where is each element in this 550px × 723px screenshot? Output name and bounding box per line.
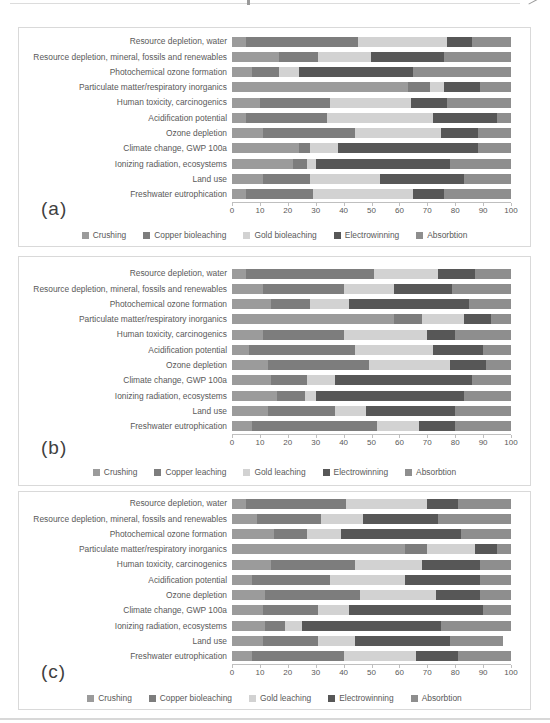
bar-segment-gold-bioleaching — [307, 159, 315, 169]
bar-segment-electrowinning — [433, 113, 497, 123]
bar-segment-absorbtion — [458, 499, 511, 509]
stacked-bar — [232, 67, 511, 77]
bar-segment-absorbtion — [483, 345, 511, 355]
bar-segment-crushing — [232, 636, 263, 646]
bar-segment-gold-bioleaching — [310, 174, 380, 184]
chart-row: Photochemical ozone formation — [19, 527, 530, 542]
bar-segment-crushing — [232, 143, 299, 153]
x-tick-label: 90 — [479, 438, 488, 447]
chart-row: Human toxicity, carcinogenics — [19, 327, 530, 342]
chart-row: Ozone depletion — [19, 588, 530, 603]
x-tick-label: 0 — [230, 438, 234, 447]
bar-segment-electrowinning — [416, 651, 458, 661]
panel-label-b: (b) — [41, 437, 67, 459]
bar-segment-gold-bioleaching — [358, 37, 447, 47]
chart-row: Ionizing radiation, ecosystems — [19, 618, 530, 633]
legend-item: Gold bioleaching — [243, 230, 316, 240]
stacked-bar — [232, 143, 511, 153]
bar-segment-crushing — [232, 529, 274, 539]
bar-segment-electrowinning — [436, 590, 481, 600]
bar-segment-crushing — [232, 189, 246, 199]
panel-label-c: (c) — [41, 661, 66, 683]
bar-segment-copper-leaching — [271, 299, 310, 309]
x-tick-label: 10 — [255, 668, 264, 677]
bar-segment-copper-leaching — [263, 284, 344, 294]
x-tick-label: 40 — [339, 668, 348, 677]
stacked-bar — [232, 636, 511, 646]
bar-segment-electrowinning — [475, 544, 497, 554]
legend-label: Absorbtion — [427, 230, 467, 240]
category-label: Resource depletion, mineral, fossils and… — [19, 515, 232, 523]
category-label: Freshwater eutrophication — [19, 422, 232, 430]
bar-segment-copper-bioleaching — [265, 621, 285, 631]
legend-label: Copper bioleaching — [154, 230, 226, 240]
legend-swatch — [82, 232, 89, 239]
bar-segment-gold-leaching — [285, 621, 302, 631]
x-tick-label: 20 — [283, 668, 292, 677]
legend-label: Gold leaching — [260, 693, 311, 703]
x-tick-label: 90 — [479, 206, 488, 215]
bar-segment-gold-leaching — [377, 421, 419, 431]
x-tick-label: 80 — [451, 668, 460, 677]
bar-segment-absorbtion — [478, 128, 511, 138]
category-label: Human toxicity, carcinogenics — [19, 330, 232, 338]
x-tick-label: 60 — [395, 668, 404, 677]
bar-segment-gold-leaching — [344, 330, 428, 340]
bar-segment-absorbtion — [438, 514, 511, 524]
bar-segment-copper-bioleaching — [271, 560, 355, 570]
stacked-bar — [232, 284, 511, 294]
x-axis: 0102030405060708090100 — [232, 202, 511, 217]
bar-segment-copper-bioleaching — [252, 67, 280, 77]
chart-panel-c: Resource depletion, waterResource deplet… — [18, 491, 531, 710]
legend-item: Gold leaching — [249, 693, 311, 703]
top-crop-rule — [10, 3, 520, 4]
chart-row: Resource depletion, water — [19, 34, 530, 49]
bar-segment-electrowinning — [427, 330, 455, 340]
bar-segment-gold-bioleaching — [318, 52, 371, 62]
bar-segment-copper-bioleaching — [274, 529, 307, 539]
x-tick-label: 10 — [255, 206, 264, 215]
legend-swatch — [416, 232, 423, 239]
chart-row: Land use — [19, 403, 530, 418]
x-tick-label: 70 — [423, 206, 432, 215]
bar-segment-gold-bioleaching — [313, 189, 413, 199]
bar-segment-electrowinning — [335, 375, 472, 385]
legend-swatch — [405, 469, 412, 476]
chart-row: Freshwater eutrophication — [19, 649, 530, 664]
category-label: Ionizing radiation, ecosystems — [19, 392, 232, 400]
x-tick-label: 60 — [395, 438, 404, 447]
bar-segment-absorbtion — [480, 590, 511, 600]
bar-segment-crushing — [232, 299, 271, 309]
stacked-bar — [232, 514, 511, 524]
chart-panel-b: Resource depletion, waterResource deplet… — [18, 256, 531, 486]
bar-segment-absorbtion — [455, 330, 511, 340]
legend-label: Electrowinning — [345, 230, 399, 240]
stacked-bar — [232, 98, 511, 108]
bar-segment-crushing — [232, 590, 265, 600]
legend-label: Copper leaching — [165, 467, 226, 477]
x-tick-label: 100 — [504, 206, 517, 215]
bar-segment-copper-bioleaching — [246, 113, 327, 123]
legend-item: Absorbtion — [405, 467, 456, 477]
legend-label: Absorbtion — [422, 693, 462, 703]
bar-segment-gold-leaching — [305, 391, 316, 401]
bar-segment-absorbtion — [413, 67, 511, 77]
bar-segment-absorbtion — [455, 406, 511, 416]
category-label: Particulate matter/respiratory inorganic… — [19, 545, 232, 553]
x-tick-label: 50 — [367, 438, 376, 447]
category-label: Resource depletion, water — [19, 37, 232, 45]
bar-segment-electrowinning — [411, 98, 447, 108]
legend-item: Copper bioleaching — [143, 230, 226, 240]
category-label: Human toxicity, carcinogenics — [19, 98, 232, 106]
legend-item: Gold leaching — [243, 467, 305, 477]
legend-item: Crushing — [93, 467, 138, 477]
bar-segment-absorbtion — [461, 529, 511, 539]
chart-row: Photochemical ozone formation — [19, 297, 530, 312]
chart-row: Resource depletion, mineral, fossils and… — [19, 281, 530, 296]
category-label: Resource depletion, mineral, fossils and… — [19, 285, 232, 293]
chart-row: Resource depletion, mineral, fossils and… — [19, 511, 530, 526]
bar-segment-absorbtion — [441, 621, 511, 631]
bar-segment-absorbtion — [464, 174, 511, 184]
bar-segment-electrowinning — [349, 605, 483, 615]
bar-segment-electrowinning — [450, 360, 486, 370]
